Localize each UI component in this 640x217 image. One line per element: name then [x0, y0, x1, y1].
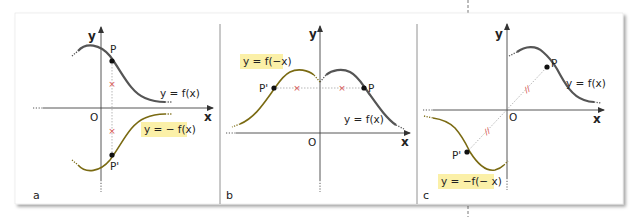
equal-mark: ×	[108, 126, 116, 136]
label-transformed-equation: y = f(−x)	[243, 55, 292, 67]
point-p-prime-label: P'	[259, 82, 268, 94]
x-axis-label: x	[401, 135, 409, 149]
point-p	[109, 58, 114, 63]
origin-label: O	[90, 111, 98, 123]
panel-label: b	[226, 189, 233, 202]
point-p	[544, 64, 549, 69]
label-original-equation: y = f(x)	[566, 77, 606, 89]
point-p-label: P	[368, 82, 374, 94]
x-axis-label: x	[204, 110, 212, 124]
x-axis-label: x	[593, 112, 601, 126]
figure: × × P P' y x O y = f(x) y = − f(x) a ×	[0, 0, 640, 217]
label-original-equation: y = f(x)	[344, 113, 384, 125]
label-original-equation: y = f(x)	[160, 87, 200, 99]
label-transformed-equation: y = − f(x)	[144, 123, 196, 135]
point-p-prime	[464, 149, 469, 154]
panel-label: a	[33, 189, 40, 202]
equal-mark: ×	[108, 79, 116, 89]
label-transformed-equation: y = −f(− x)	[441, 175, 502, 187]
origin-label: O	[509, 111, 517, 123]
point-p-prime	[109, 152, 114, 157]
point-p-label: P	[551, 57, 557, 69]
point-p-prime	[271, 85, 276, 90]
point-p-prime-label: P'	[110, 160, 119, 172]
y-axis-label: y	[88, 29, 96, 43]
equal-mark: ×	[293, 83, 301, 93]
equal-mark: ×	[338, 83, 346, 93]
panel-label: c	[423, 189, 429, 202]
point-p-label: P	[110, 43, 116, 55]
point-p-prime-label: P'	[452, 149, 461, 161]
figure-frame	[15, 13, 623, 204]
y-axis-label: y	[309, 27, 317, 41]
origin-label: O	[308, 136, 316, 148]
y-axis-label: y	[495, 27, 503, 41]
point-p	[361, 85, 366, 90]
